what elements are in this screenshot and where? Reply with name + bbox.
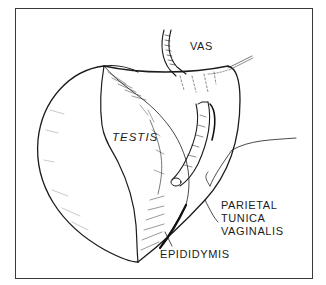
suture-thread — [206, 56, 296, 186]
label-epididymis: EPIDIDYMIS — [160, 248, 230, 260]
label-testis: TESTIS — [112, 131, 158, 143]
testis — [101, 66, 189, 262]
epididymis — [160, 102, 215, 248]
label-line-parietal: PARIETAL — [221, 199, 284, 212]
label-line-tunica: TUNICA — [221, 212, 284, 225]
leader-parietal — [205, 200, 218, 222]
label-vas: VAS — [190, 40, 213, 52]
anatomy-drawing — [0, 0, 326, 285]
vas-deferens — [162, 30, 186, 76]
label-parietal-tunica-vaginalis: PARIETAL TUNICA VAGINALIS — [221, 199, 284, 238]
illustration-canvas: VAS TESTIS PARIETAL TUNICA VAGINALIS EPI… — [0, 0, 326, 285]
label-line-vaginalis: VAGINALIS — [221, 225, 284, 238]
